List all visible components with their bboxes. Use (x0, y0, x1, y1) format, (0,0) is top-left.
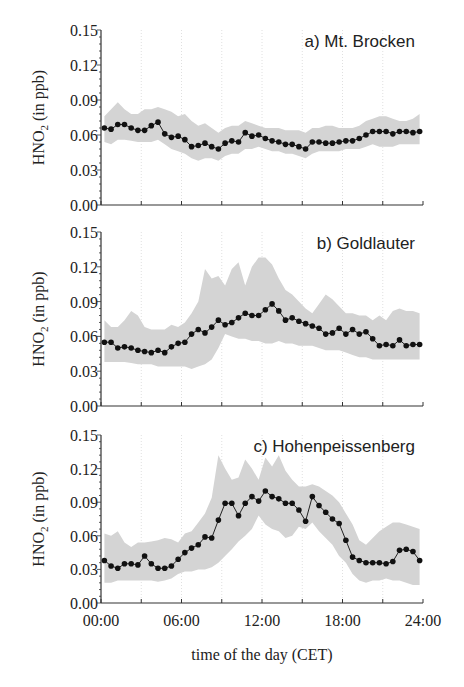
data-point (410, 130, 416, 136)
data-point (343, 331, 349, 337)
data-point (397, 337, 403, 343)
y-tick-label: 0.00 (70, 398, 98, 415)
data-point (115, 345, 121, 351)
data-point (229, 501, 235, 507)
data-point (370, 336, 376, 342)
data-point (175, 133, 181, 139)
data-point (142, 128, 148, 134)
data-point (216, 517, 222, 523)
data-point (242, 130, 248, 136)
data-point (283, 142, 289, 148)
data-point (363, 560, 369, 566)
data-point (169, 563, 175, 569)
data-point (242, 501, 248, 507)
data-point (303, 321, 309, 327)
data-point (336, 521, 342, 527)
data-point (276, 496, 282, 502)
y-tick-label: 0.03 (70, 162, 98, 179)
data-point (323, 331, 329, 337)
data-point (162, 350, 168, 356)
data-point (108, 126, 114, 132)
data-point (189, 545, 195, 551)
data-point (356, 558, 362, 564)
y-tick-label: 0.12 (70, 57, 98, 74)
data-point (122, 561, 128, 567)
data-point (417, 342, 423, 348)
data-point (383, 342, 389, 348)
data-point (102, 125, 108, 131)
data-point (189, 144, 195, 150)
data-point (356, 136, 362, 142)
data-point (350, 327, 356, 333)
data-point (229, 138, 235, 144)
data-point (303, 146, 309, 152)
data-point (310, 323, 316, 329)
data-point (202, 534, 208, 540)
y-tick-label: 0.15 (70, 427, 98, 444)
data-point (330, 330, 336, 336)
data-point (169, 344, 175, 350)
data-point (403, 343, 409, 349)
data-point (323, 140, 329, 146)
data-point (209, 535, 215, 541)
data-point (410, 549, 416, 555)
data-point (283, 501, 289, 507)
data-point (222, 322, 228, 328)
data-point (283, 317, 289, 323)
data-point (417, 558, 423, 564)
data-point (108, 339, 114, 345)
data-point (263, 488, 269, 494)
data-point (249, 494, 255, 500)
data-point (122, 122, 128, 128)
data-point (296, 507, 302, 513)
data-point (316, 503, 322, 509)
data-point (102, 339, 108, 345)
data-point (256, 132, 262, 138)
data-point (102, 558, 108, 564)
data-point (256, 498, 262, 504)
data-point (229, 320, 235, 326)
data-point (182, 137, 188, 143)
data-point (410, 342, 416, 348)
data-point (276, 139, 282, 145)
data-point (155, 565, 161, 571)
data-point (390, 559, 396, 565)
data-point (128, 345, 134, 351)
data-point (162, 565, 168, 571)
data-point (149, 350, 155, 356)
data-point (323, 509, 329, 515)
data-point (310, 139, 316, 145)
data-point (316, 325, 322, 331)
y-tick-label: 0.09 (70, 294, 98, 311)
x-tick-label: 12:00 (244, 612, 280, 629)
data-point (209, 324, 215, 330)
data-point (182, 550, 188, 556)
data-point (383, 561, 389, 567)
data-point (216, 317, 222, 323)
data-point (169, 135, 175, 141)
data-point (182, 339, 188, 345)
data-point (135, 128, 141, 134)
data-point (202, 330, 208, 336)
data-point (403, 546, 409, 552)
data-point (336, 325, 342, 331)
y-axis-label: HNO2 (in ppb) (30, 271, 50, 366)
data-point (350, 138, 356, 144)
data-point (202, 140, 208, 146)
data-point (263, 136, 269, 142)
panel-title: b) Goldlauter (317, 234, 416, 253)
data-point (236, 315, 242, 321)
data-point (397, 129, 403, 135)
data-point (276, 308, 282, 314)
data-point (115, 122, 121, 128)
data-point (128, 125, 134, 131)
y-tick-label: 0.00 (70, 595, 98, 612)
y-tick-label: 0.12 (70, 259, 98, 276)
data-point (115, 565, 121, 571)
data-point (370, 560, 376, 566)
y-tick-label: 0.12 (70, 461, 98, 478)
data-point (289, 142, 295, 148)
data-point (336, 139, 342, 145)
hno2-diurnal-figure: 0.000.030.060.090.120.15a) Mt. BrockenHN… (0, 0, 464, 687)
data-point (350, 554, 356, 560)
